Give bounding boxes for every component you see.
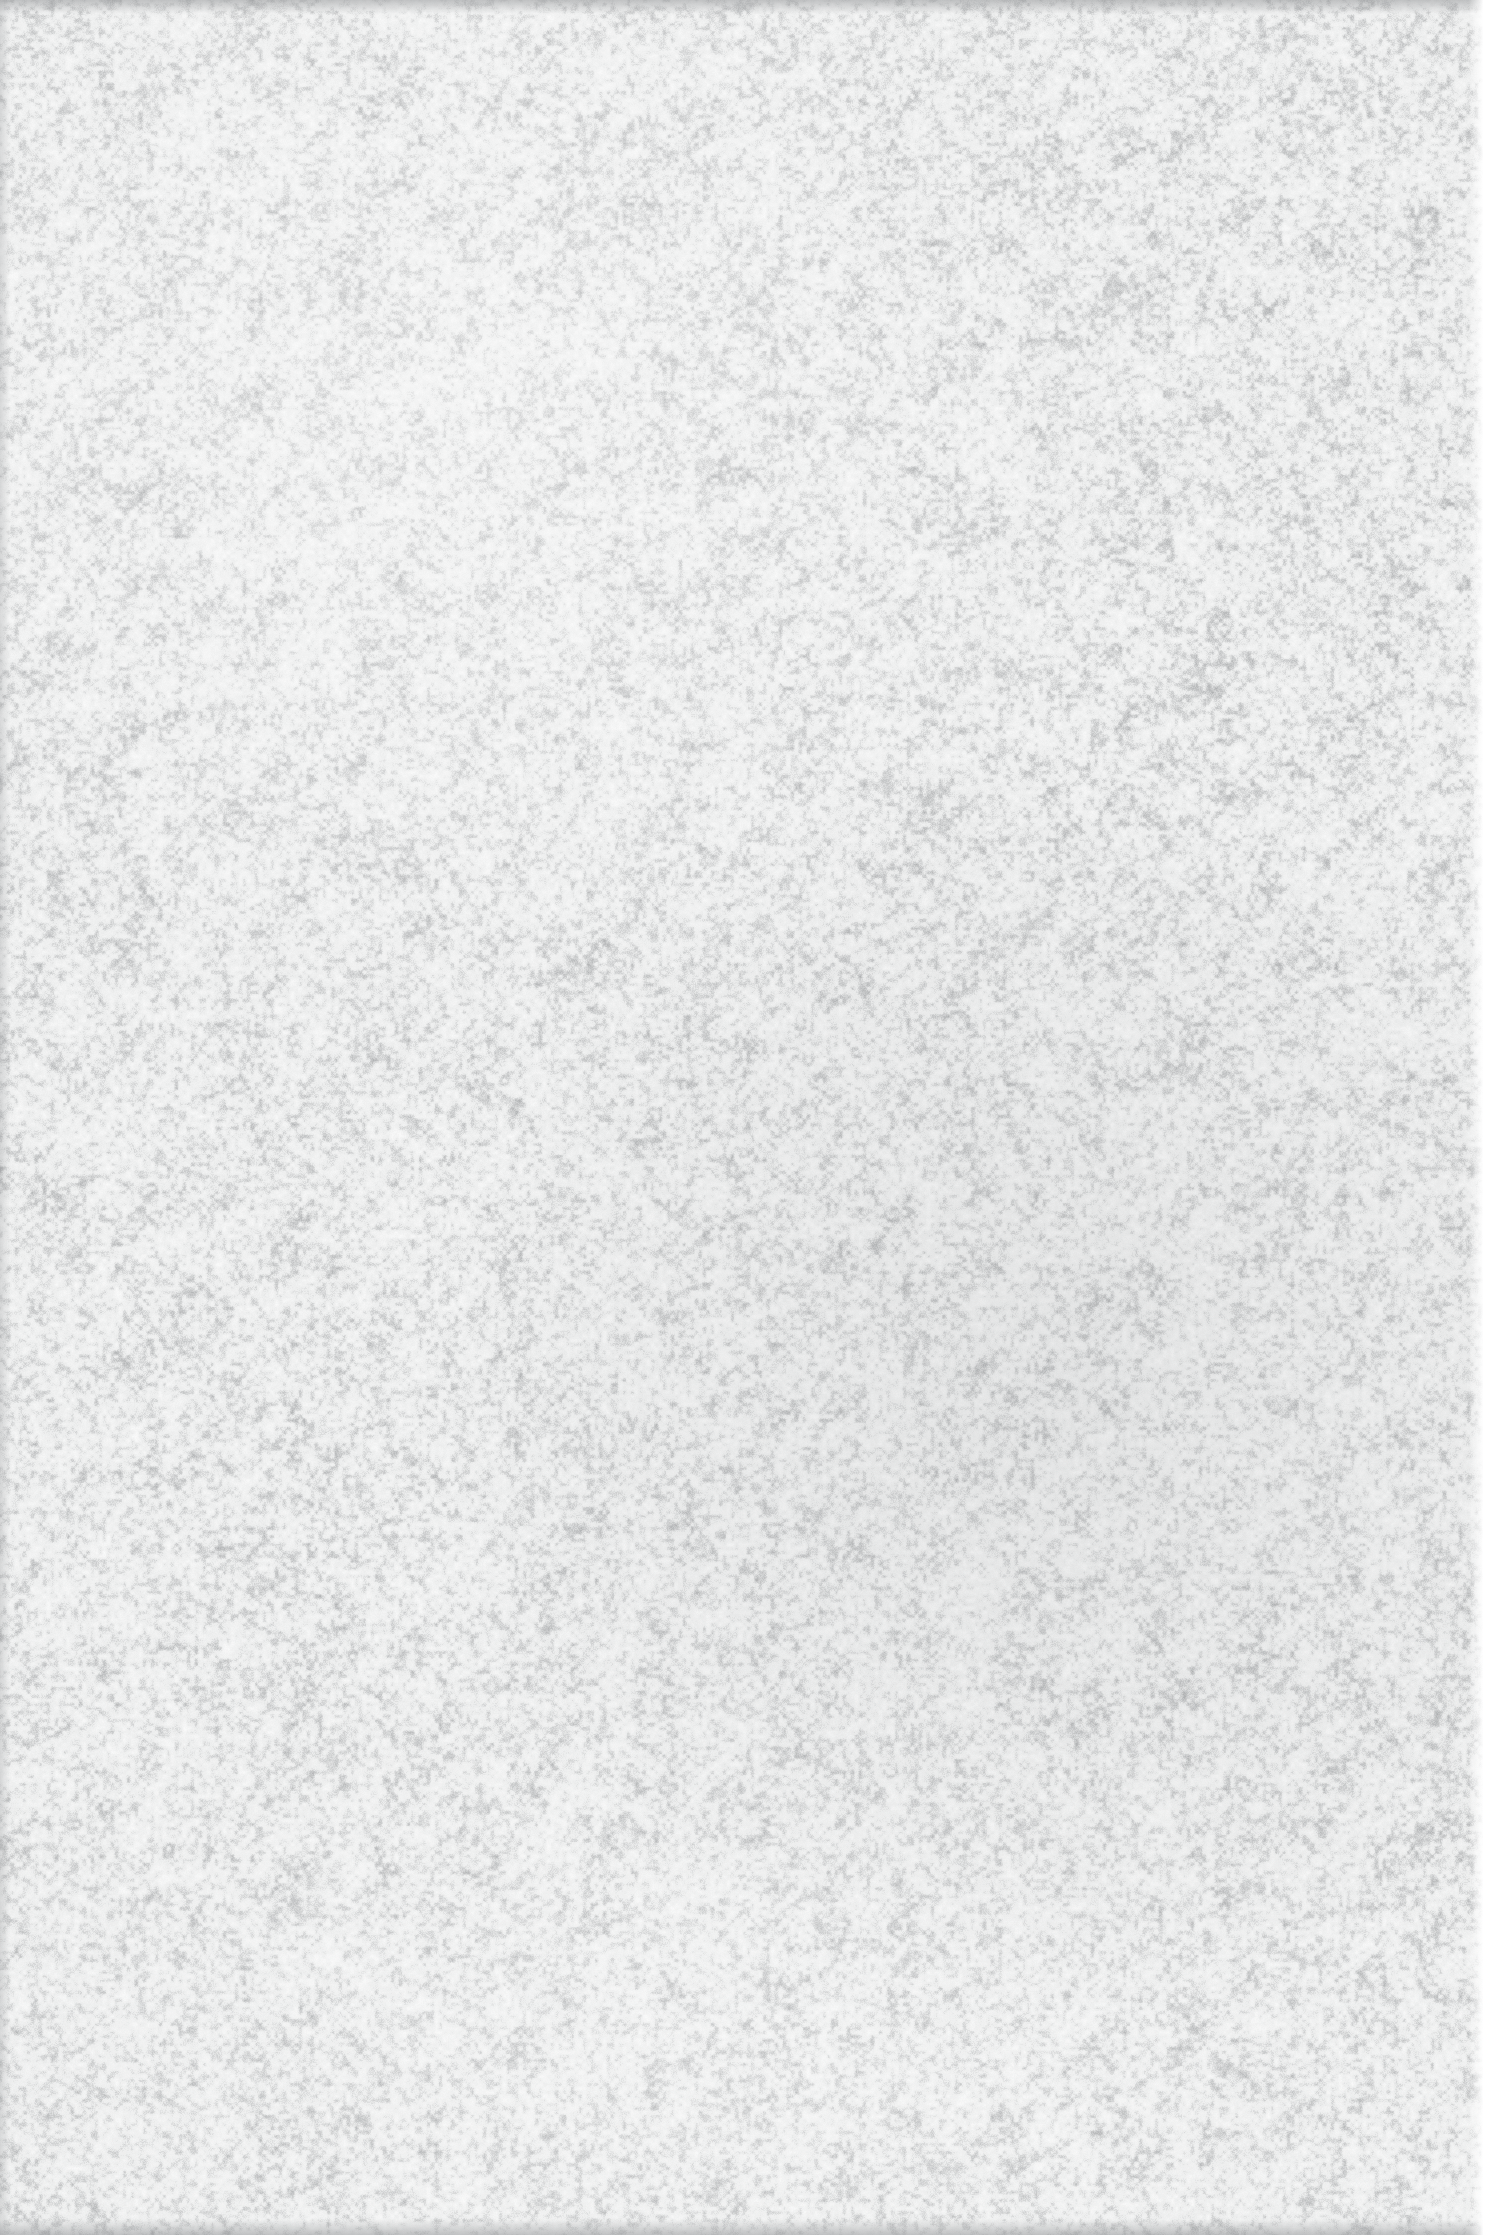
- image-canvas: [0, 0, 1507, 2235]
- right-white-margin: [1483, 0, 1507, 2235]
- grain-canvas: [0, 0, 1483, 2235]
- noise-texture-field: [0, 0, 1483, 2235]
